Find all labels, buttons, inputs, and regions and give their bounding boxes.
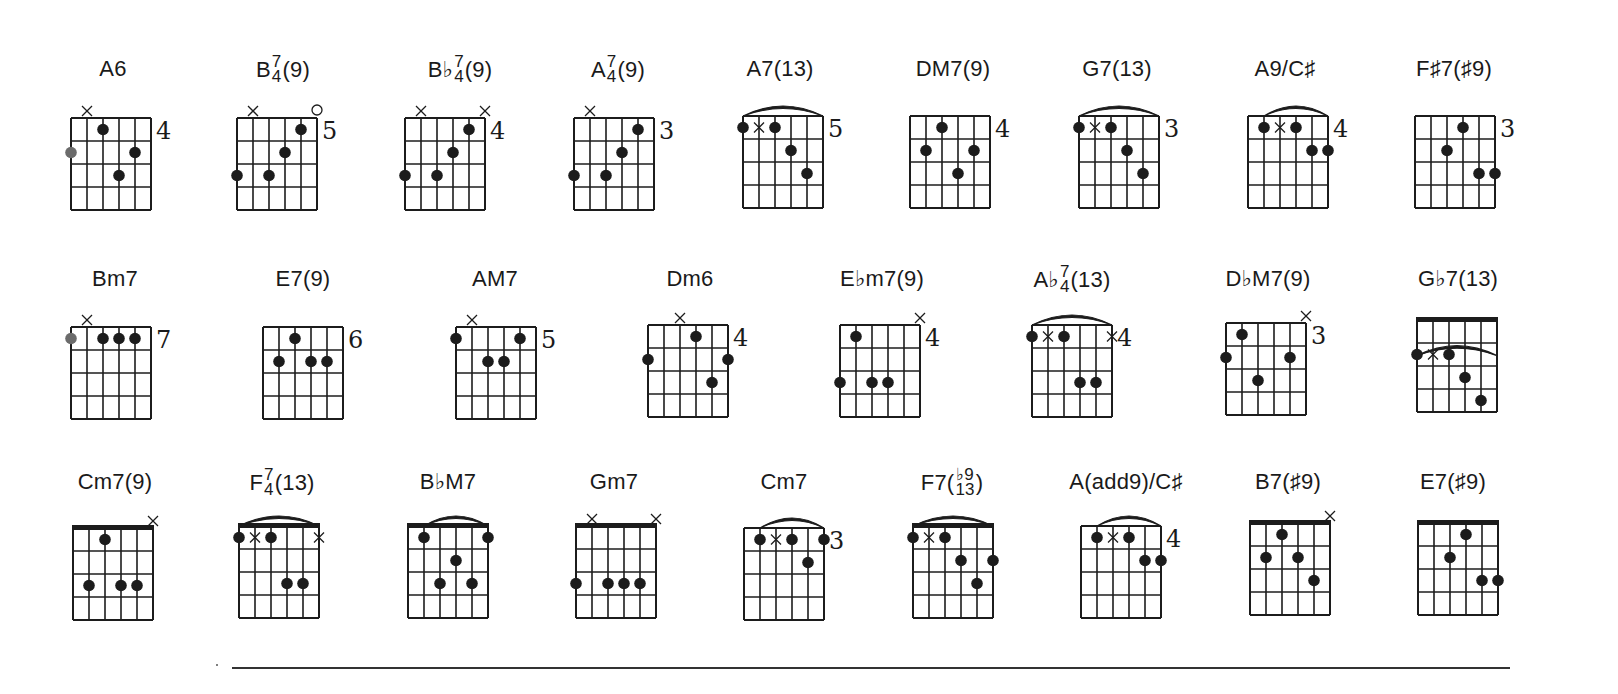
open-string-o-icon [312,105,322,115]
finger-dot [113,333,125,345]
chord-root: AM7 [472,266,518,291]
chord-root: DM7(9) [916,56,991,81]
muted-string-x-icon [480,106,490,116]
chord-diagram [729,508,839,640]
chord-root: A(add9)/C♯ [1069,469,1182,494]
finger-dot [1258,122,1270,134]
barre-arc [1079,106,1159,116]
fret-position-label: 3 [1311,324,1326,348]
chord-suffix: (13) [275,470,315,495]
fret-position-label: 7 [156,328,171,352]
finger-dot [706,377,718,389]
finger-dot [802,557,814,569]
finger-dot [1292,552,1304,564]
chord-extension: 4 [264,482,274,497]
finger-dot [233,532,245,544]
chord-name: A7(13) [680,56,880,82]
muted-string-x-icon [467,315,477,325]
muted-string-x-icon [587,514,597,524]
finger-dot [450,333,462,345]
finger-dot [1139,555,1151,567]
finger-dot [1459,372,1471,384]
finger-dot [987,555,999,567]
finger-dot [866,377,878,389]
fret-position-label: 3 [659,119,674,143]
chord-extension: 4 [454,69,464,84]
finger-dot [1123,532,1135,544]
finger-dot [968,145,980,157]
fret-position-label: 5 [541,328,556,352]
finger-dot [1105,122,1117,134]
finger-dot [737,122,749,134]
finger-dot [634,578,646,590]
finger-dot [1058,331,1070,343]
finger-dot [1475,395,1487,407]
chord-diagram [224,506,334,638]
finger-dot [131,580,143,592]
finger-dot [447,147,459,159]
print-speck [216,664,218,666]
finger-dot [1473,168,1485,180]
chord-diagram [1402,300,1512,432]
chord-diagram [222,98,332,230]
fret-position-label: 4 [733,326,748,350]
finger-dot [785,145,797,157]
finger-dot [431,170,443,182]
finger-dot [1252,375,1264,387]
finger-dot [281,578,293,590]
chord-extension-stack: 74 [1060,264,1070,294]
finger-dot [570,578,582,590]
fret-position-label: 3 [829,529,844,553]
chord-name: E7(9) [203,266,403,292]
chord-extension-stack: 74 [454,54,464,84]
chord-diagram [633,305,743,437]
finger-dot [1155,555,1167,567]
muted-string-x-icon [1301,311,1311,321]
finger-dot [1236,329,1248,341]
fret-position-label: 5 [828,117,843,141]
chord-diagram [559,98,669,230]
finger-dot [1322,145,1334,157]
finger-dot [786,534,798,546]
chord-diagram [561,506,671,638]
finger-dot [297,578,309,590]
finger-dot [289,333,301,345]
chord-root: D♭M7(9) [1225,266,1310,291]
finger-dot [769,122,781,134]
fret-position-label: 4 [1117,326,1132,350]
finger-dot [632,124,644,136]
chord-diagram [56,98,166,230]
muted-string-x-icon [416,106,426,116]
chord-diagram [390,98,500,230]
chord-suffix: (9) [465,57,493,82]
finger-dot [1443,349,1455,361]
finger-dot [1444,552,1456,564]
finger-dot [690,331,702,343]
chord-extension: 4 [1060,279,1070,294]
barre-arc [1264,106,1328,116]
finger-dot [1306,145,1318,157]
finger-dot [1137,168,1149,180]
chord-root: A♭ [1033,267,1058,292]
bottom-rule [232,667,1510,669]
chord-root: B [256,57,271,82]
chord-root: E7(9) [276,266,331,291]
finger-dot [1260,552,1272,564]
fret-position-label: 5 [322,119,337,143]
finger-dot [1492,575,1504,587]
chord-name: G♭7(13) [1358,266,1558,292]
finger-dot [1073,122,1085,134]
chord-suffix: (9) [283,57,311,82]
finger-dot [1441,145,1453,157]
finger-dot [568,170,580,182]
finger-dot [1308,575,1320,587]
muted-string-x-icon [675,313,685,323]
chord-extension: 4 [272,69,282,84]
finger-dot [1090,377,1102,389]
finger-dot [952,168,964,180]
finger-dot [97,124,109,136]
chord-name: B74(9) [183,56,383,86]
chord-name: Bm7 [15,266,215,292]
chord-root: Bm7 [92,266,138,291]
fret-position-label: 4 [156,119,171,143]
